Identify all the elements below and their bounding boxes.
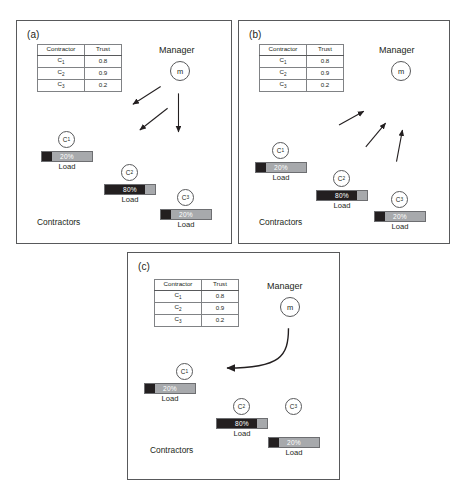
load-bar-c3-a: 20% [160, 209, 212, 220]
contractor-node-c1-a: C1 [58, 131, 75, 148]
table-row: C3 0.2 [38, 79, 122, 91]
contractor-node-c1-c: C1 [176, 363, 193, 380]
load-caption: Load [316, 201, 368, 210]
load-group-c2-c: 80% Load [216, 418, 268, 438]
table-header-row: Contractor Trust [260, 45, 344, 56]
panel-a: (a) Contractor Trust C1 0.8 C2 0.9 C3 [16, 20, 232, 244]
cell-trust: 0.9 [85, 67, 122, 79]
table-row: C2 0.9 [260, 67, 344, 79]
cell-trust: 0.2 [307, 79, 344, 91]
table-row: C3 0.2 [260, 79, 344, 91]
load-percent: 80% [317, 191, 367, 200]
load-group-c1-c: 20% Load [144, 383, 196, 403]
contractor-node-c1-b: C1 [272, 142, 289, 159]
table-row: C1 0.8 [155, 290, 239, 302]
load-caption: Load [160, 220, 212, 229]
cell-contractor: C3 [260, 79, 307, 91]
panel-c: (c) Contractor Trust C1 0.8 C2 0.9 C3 [127, 252, 340, 480]
cell-trust: 0.8 [202, 290, 239, 302]
arrow-from-c2 [366, 123, 386, 147]
load-bar-c1-a: 20% [41, 151, 93, 162]
table-row: C2 0.9 [38, 67, 122, 79]
load-caption: Load [41, 162, 93, 171]
manager-label-c: Manager [267, 281, 303, 291]
column-header-trust: Trust [202, 280, 239, 291]
table-row: C1 0.8 [260, 55, 344, 67]
table-header-row: Contractor Trust [38, 45, 122, 56]
load-bar-c1-c: 20% [144, 383, 196, 394]
load-group-c1-a: 20% Load [41, 151, 93, 171]
load-percent: 20% [375, 212, 425, 221]
load-percent: 20% [145, 384, 195, 393]
panel-b-label: (b) [249, 29, 262, 40]
load-caption: Load [255, 173, 307, 182]
column-header-contractor: Contractor [260, 45, 307, 56]
load-percent: 20% [256, 163, 306, 172]
load-group-c3-c: 20% Load [268, 437, 320, 457]
load-group-c3-a: 20% Load [160, 209, 212, 229]
manager-label-a: Manager [159, 45, 195, 55]
contractors-label-a: Contractors [37, 217, 80, 227]
cell-contractor: C3 [38, 79, 85, 91]
arrow-from-c3 [397, 130, 403, 162]
arrow-to-c1 [133, 86, 161, 104]
load-bar-c1-b: 20% [255, 162, 307, 173]
contractor-node-c2-b: C2 [333, 170, 350, 187]
contractors-label-c: Contractors [150, 445, 193, 455]
load-percent: 80% [105, 185, 155, 194]
load-bar-c2-a: 80% [104, 184, 156, 195]
cell-contractor: C3 [155, 314, 202, 326]
table-row: C2 0.9 [155, 302, 239, 314]
curved-arrow-manager-to-c1 [227, 328, 288, 368]
panel-c-label: (c) [138, 261, 150, 272]
table-row: C3 0.2 [155, 314, 239, 326]
load-percent: 20% [269, 438, 319, 447]
column-header-contractor: Contractor [38, 45, 85, 56]
load-group-c2-a: 80% Load [104, 184, 156, 204]
load-bar-c2-c: 80% [216, 418, 268, 429]
trust-table-c: Contractor Trust C1 0.8 C2 0.9 C3 0.2 [154, 279, 239, 327]
load-caption: Load [374, 222, 426, 231]
cell-contractor: C2 [260, 67, 307, 79]
load-caption: Load [104, 195, 156, 204]
cell-trust: 0.9 [307, 67, 344, 79]
manager-node-b: m [391, 61, 411, 81]
contractors-label-b: Contractors [259, 217, 302, 227]
arrow-from-c1 [339, 111, 364, 125]
contractor-node-c3-b: C3 [391, 191, 408, 208]
arrow-to-c2 [140, 108, 168, 130]
cell-contractor: C1 [260, 55, 307, 67]
load-percent: 20% [161, 210, 211, 219]
cell-contractor: C1 [155, 290, 202, 302]
load-group-c3-b: 20% Load [374, 211, 426, 231]
load-group-c1-b: 20% Load [255, 162, 307, 182]
cell-trust: 0.8 [85, 55, 122, 67]
column-header-contractor: Contractor [155, 280, 202, 291]
load-caption: Load [216, 429, 268, 438]
column-header-trust: Trust [85, 45, 122, 56]
panel-b: (b) Contractor Trust C1 0.8 C2 0.9 C3 [238, 20, 450, 244]
contractor-node-c2-c: C2 [233, 398, 250, 415]
table-row: C1 0.8 [38, 55, 122, 67]
cell-trust: 0.2 [202, 314, 239, 326]
manager-node-a: m [170, 61, 190, 81]
column-header-trust: Trust [307, 45, 344, 56]
load-bar-c2-b: 80% [316, 190, 368, 201]
cell-contractor: C2 [155, 302, 202, 314]
load-caption: Load [144, 394, 196, 403]
load-caption: Load [268, 448, 320, 457]
manager-node-c: m [280, 297, 300, 317]
trust-table-b: Contractor Trust C1 0.8 C2 0.9 C3 0.2 [259, 44, 344, 92]
cell-contractor: C2 [38, 67, 85, 79]
load-group-c2-b: 80% Load [316, 190, 368, 210]
cell-contractor: C1 [38, 55, 85, 67]
trust-table-a: Contractor Trust C1 0.8 C2 0.9 C3 0.2 [37, 44, 122, 92]
panel-a-label: (a) [27, 29, 40, 40]
contractor-node-c2-a: C2 [121, 164, 138, 181]
cell-trust: 0.2 [85, 79, 122, 91]
cell-trust: 0.9 [202, 302, 239, 314]
contractor-node-c3-a: C3 [177, 189, 194, 206]
figure-three-panel-diagram: (a) Contractor Trust C1 0.8 C2 0.9 C3 [0, 0, 466, 493]
load-percent: 80% [217, 419, 267, 428]
table-header-row: Contractor Trust [155, 280, 239, 291]
